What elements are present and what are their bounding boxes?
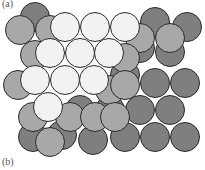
- sphere: [21, 66, 50, 95]
- sphere: [36, 128, 65, 157]
- sphere: [66, 39, 95, 68]
- sphere: [101, 103, 130, 132]
- sphere: [156, 96, 185, 125]
- panel-label-b: (b): [2, 156, 14, 167]
- sphere: [171, 69, 200, 98]
- sphere: [141, 69, 170, 98]
- sphere: [51, 13, 80, 42]
- sphere: [95, 39, 124, 68]
- sphere: [6, 16, 35, 45]
- sphere: [80, 66, 109, 95]
- sphere: [171, 123, 200, 152]
- sphere: [111, 71, 140, 100]
- sphere: [156, 24, 185, 53]
- sphere: [111, 13, 140, 42]
- sphere: [81, 13, 110, 42]
- sphere-packing-diagram: [0, 0, 205, 170]
- sphere: [126, 96, 155, 125]
- sphere: [141, 123, 170, 152]
- sphere: [51, 66, 80, 95]
- sphere: [34, 93, 63, 122]
- sphere: [36, 39, 65, 68]
